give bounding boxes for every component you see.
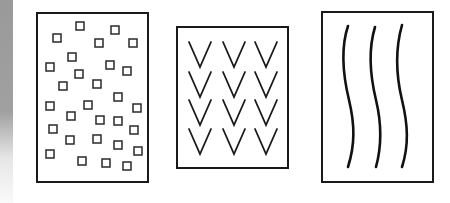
square-mark: [46, 102, 54, 110]
diagram-canvas: [0, 0, 450, 203]
square-mark: [75, 70, 83, 78]
square-mark: [134, 147, 142, 155]
square-mark: [114, 93, 122, 101]
square-mark: [93, 135, 101, 143]
chevron-mark: [255, 72, 277, 97]
square-mark: [66, 136, 74, 144]
panel-chevrons: [177, 27, 288, 168]
square-mark: [68, 53, 76, 61]
chevron-mark: [255, 42, 277, 67]
chevron-mark: [189, 72, 211, 97]
square-mark: [84, 101, 92, 109]
wavy-line: [343, 26, 353, 167]
panel-wavy-lines: [322, 12, 433, 182]
chevron-mark: [189, 100, 211, 125]
chevron-mark: [223, 42, 245, 67]
square-mark: [59, 82, 67, 90]
panel-squares: [37, 13, 148, 182]
chevron-mark: [255, 100, 277, 125]
chevron-mark: [223, 129, 245, 154]
square-marks: [46, 22, 142, 170]
chevron-mark: [223, 100, 245, 125]
panel-frame: [177, 27, 288, 168]
square-mark: [93, 80, 101, 88]
chevron-marks: [189, 42, 277, 154]
square-mark: [102, 159, 110, 167]
square-mark: [129, 39, 137, 47]
square-mark: [46, 63, 54, 71]
square-mark: [114, 117, 122, 125]
chevron-mark: [223, 72, 245, 97]
square-mark: [123, 162, 131, 170]
square-mark: [53, 34, 61, 42]
square-mark: [106, 61, 114, 69]
square-mark: [96, 116, 104, 124]
square-mark: [130, 126, 138, 134]
wavy-line: [397, 25, 407, 167]
square-mark: [76, 22, 84, 30]
square-mark: [114, 141, 122, 149]
square-mark: [123, 67, 131, 75]
square-mark: [133, 104, 141, 112]
chevron-mark: [255, 129, 277, 154]
square-mark: [95, 39, 103, 47]
wavy-line: [371, 27, 381, 167]
chevron-mark: [189, 42, 211, 67]
wavy-line-marks: [343, 25, 407, 167]
square-mark: [49, 125, 57, 133]
chevron-mark: [189, 129, 211, 154]
square-mark: [78, 157, 86, 165]
square-mark: [111, 26, 119, 34]
square-mark: [46, 150, 54, 158]
square-mark: [67, 112, 75, 120]
